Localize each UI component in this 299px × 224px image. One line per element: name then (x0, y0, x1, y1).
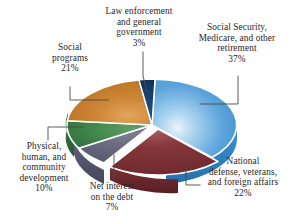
label-percent: 22% (188, 188, 298, 199)
label-percent: 37% (181, 54, 293, 65)
slice-label-social-security: Social Security, Medicare, and other ret… (181, 22, 293, 64)
label-line: Net interest (90, 181, 134, 191)
pie-chart-figure: Social Security, Medicare, and other ret… (0, 0, 299, 224)
label-line: National (227, 156, 260, 166)
label-line: development (19, 173, 68, 183)
label-line: community (22, 162, 65, 172)
label-line: on the debt (91, 192, 133, 202)
label-percent: 21% (28, 63, 112, 74)
label-line: government (116, 27, 161, 37)
label-line: retirement (217, 43, 256, 53)
label-line: programs (52, 53, 88, 63)
slice-label-net-interest: Net interest on the debt 7% (72, 181, 152, 213)
label-line: and foreign affairs (208, 177, 278, 187)
label-line: human, and (22, 152, 66, 162)
slice-label-national-defense: National defense, veterans, and foreign … (188, 156, 298, 198)
label-line: and general (117, 17, 161, 27)
slice-social-programs[interactable] (67, 80, 152, 125)
label-line: Medicare, and other (199, 33, 276, 43)
label-line: defense, veterans, (209, 167, 277, 177)
label-line: Social (58, 42, 82, 52)
label-line: Law enforcement (106, 6, 173, 16)
label-line: Physical, (27, 141, 62, 151)
label-percent: 7% (72, 202, 152, 213)
label-line: Social Security, (207, 22, 267, 32)
slice-label-social-programs: Social programs 21% (28, 42, 112, 74)
